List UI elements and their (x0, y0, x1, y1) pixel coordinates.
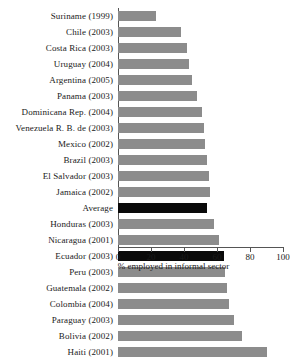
category-label: Argentina (2005) (0, 72, 116, 88)
category-label: Suriname (1999) (0, 8, 116, 24)
category-label: Colombia (2004) (0, 296, 116, 312)
bar-row (118, 8, 283, 24)
bar-row (118, 280, 283, 296)
bar-row (118, 104, 283, 120)
category-axis-labels: Suriname (1999)Chile (2003)Costa Rica (2… (0, 8, 116, 360)
bar-row (118, 136, 283, 152)
x-axis-title: % employed in informal sector (0, 261, 301, 271)
category-label: Paraguay (2003) (0, 312, 116, 328)
bar-row (118, 312, 283, 328)
bar (118, 107, 202, 117)
bar (118, 315, 234, 325)
bar (118, 187, 210, 197)
bar-row (118, 72, 283, 88)
category-label: Average (0, 200, 116, 216)
bar-row (118, 88, 283, 104)
bar (118, 59, 189, 69)
category-label: El Salvador (2003) (0, 168, 116, 184)
bars-container (118, 8, 283, 360)
category-label: Bolivia (2002) (0, 328, 116, 344)
category-label: Mexico (2002) (0, 136, 116, 152)
category-label: Honduras (2003) (0, 216, 116, 232)
bar-row (118, 184, 283, 200)
category-label: Brazil (2003) (0, 152, 116, 168)
bar-row (118, 216, 283, 232)
bar (118, 347, 267, 357)
bar (118, 123, 204, 133)
bar-row (118, 328, 283, 344)
plot-area (118, 8, 283, 248)
bar-row (118, 40, 283, 56)
bar-row (118, 232, 283, 248)
bar (118, 75, 192, 85)
bar (118, 235, 219, 245)
category-label: Haiti (2001) (0, 344, 116, 360)
category-label: Costa Rica (2003) (0, 40, 116, 56)
bar (118, 11, 156, 21)
bar (118, 219, 214, 229)
category-label: Jamaica (2002) (0, 184, 116, 200)
bar (118, 331, 242, 341)
bar-row (118, 120, 283, 136)
category-label: Chile (2003) (0, 24, 116, 40)
category-label: Guatemala (2002) (0, 280, 116, 296)
bar (118, 203, 207, 213)
bar-row (118, 56, 283, 72)
bar (118, 155, 207, 165)
bar (118, 171, 209, 181)
bar-row (118, 168, 283, 184)
bar-row (118, 200, 283, 216)
bar (118, 299, 229, 309)
bar-row (118, 24, 283, 40)
category-label: Venezuela R. B. de (2003) (0, 120, 116, 136)
category-label: Panama (2003) (0, 88, 116, 104)
bar (118, 91, 197, 101)
bar (118, 27, 181, 37)
bar-row (118, 344, 283, 360)
bar (118, 283, 227, 293)
bar (118, 43, 187, 53)
bar (118, 139, 205, 149)
category-label: Uruguay (2004) (0, 56, 116, 72)
category-label: Dominicana Rep. (2004) (0, 104, 116, 120)
bar-row (118, 152, 283, 168)
bar-row (118, 296, 283, 312)
category-label: Nicaragua (2001) (0, 232, 116, 248)
